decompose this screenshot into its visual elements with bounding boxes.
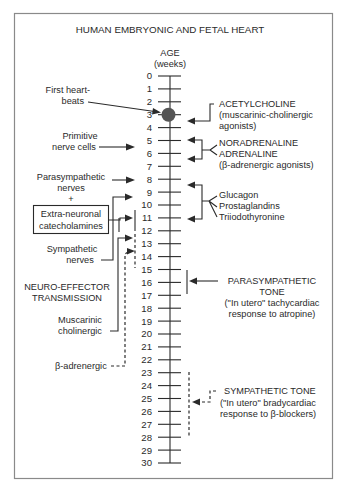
label-primitive-2: nerve cells bbox=[52, 142, 96, 152]
label-acetylcholine-3: agonists) bbox=[219, 121, 256, 131]
label-neuro-effector-1: NEURO-EFFECTOR bbox=[24, 282, 110, 292]
label-noradrenaline: NORADRENALINE bbox=[219, 138, 298, 148]
axis-tick-label: 13 bbox=[141, 238, 152, 249]
label-neuro-effector-2: TRANSMISSION bbox=[32, 293, 102, 303]
axis-tick-label: 14 bbox=[141, 251, 152, 262]
axis-tick-label: 16 bbox=[141, 277, 152, 288]
axis-tick-label: 18 bbox=[141, 303, 152, 314]
label-muscarinic-1: Muscarinic bbox=[58, 315, 102, 325]
axis-tick-label: 10 bbox=[141, 199, 152, 210]
label-parasympathetic-nerves-2: nerves bbox=[57, 183, 85, 193]
axis-tick-label: 9 bbox=[147, 187, 152, 198]
label-sympathetic-tone-2: ("In utero" bradycardiac bbox=[220, 398, 316, 408]
label-glucagon: Glucagon bbox=[219, 190, 258, 200]
label-extra-neuronal-1: Extra-neuronal bbox=[41, 209, 101, 219]
axis-tick-label: 5 bbox=[147, 135, 152, 146]
label-sympathetic-nerves-2: nerves bbox=[66, 255, 94, 265]
axis-tick-label: 22 bbox=[141, 354, 152, 365]
label-sympathetic-nerves-1: Sympathetic bbox=[47, 244, 98, 254]
label-sympathetic-tone-3: response to β-blockers) bbox=[220, 409, 316, 419]
axis-tick-label: 30 bbox=[141, 457, 152, 468]
axis-tick-label: 1 bbox=[147, 83, 152, 94]
label-prostaglandins: Prostaglandins bbox=[219, 201, 280, 211]
axis-label: AGE bbox=[160, 48, 179, 58]
label-parasympathetic-tone-3: ("In utero" tachycardiac bbox=[225, 298, 320, 308]
label-first-heartbeats-2: beats bbox=[62, 96, 85, 106]
embryonic-heart-diagram: HUMAN EMBRYONIC AND FETAL HEART AGE (wee… bbox=[0, 0, 340, 487]
axis-tick-label: 23 bbox=[141, 367, 152, 378]
first-heartbeat-dot bbox=[162, 108, 176, 122]
axis-tick-label: 12 bbox=[141, 225, 152, 236]
label-triiodothyronine: Triiodothyronine bbox=[219, 212, 285, 222]
label-sympathetic-tone-1: SYMPATHETIC TONE bbox=[224, 386, 316, 396]
label-parasympathetic-tone-2: TONE bbox=[259, 287, 284, 297]
label-parasympathetic-tone-4: response to atropine) bbox=[229, 309, 316, 319]
label-muscarinic-2: cholinergic bbox=[58, 326, 102, 336]
figure-title: HUMAN EMBRYONIC AND FETAL HEART bbox=[76, 24, 265, 35]
label-extra-neuronal-2: catecholamines bbox=[39, 221, 103, 231]
axis-tick-label: 29 bbox=[141, 445, 152, 456]
axis-tick-label: 20 bbox=[141, 328, 152, 339]
axis-tick-label: 0 bbox=[147, 70, 152, 81]
label-parasympathetic-nerves-1: Parasympathetic bbox=[37, 172, 106, 182]
axis-unit: (weeks) bbox=[154, 59, 186, 69]
axis-tick-label: 2 bbox=[147, 96, 152, 107]
axis-tick-label: 6 bbox=[147, 148, 152, 159]
axis-tick-label: 15 bbox=[141, 264, 152, 275]
axis-tick-label: 17 bbox=[141, 290, 152, 301]
axis-tick-label: 19 bbox=[141, 316, 152, 327]
label-primitive-1: Primitive bbox=[62, 131, 97, 141]
plus-sign: + bbox=[68, 194, 73, 204]
axis-tick-label: 26 bbox=[141, 406, 152, 417]
axis-tick-label: 11 bbox=[142, 212, 152, 223]
label-parasympathetic-tone-1: PARASYMPATHETIC bbox=[228, 276, 317, 286]
label-beta-agonists: (β-adrenergic agonists) bbox=[219, 160, 314, 170]
label-adrenaline: ADRENALINE bbox=[219, 149, 278, 159]
axis-tick-label: 4 bbox=[147, 122, 153, 133]
axis-tick-label: 25 bbox=[141, 393, 152, 404]
axis-tick-label: 24 bbox=[141, 380, 152, 391]
label-acetylcholine-2: (muscarinic-cholinergic bbox=[219, 110, 313, 120]
axis-tick-label: 7 bbox=[147, 161, 152, 172]
label-first-heartbeats-1: First heart- bbox=[46, 85, 90, 95]
axis-tick-label: 27 bbox=[141, 419, 152, 430]
axis-tick-label: 8 bbox=[147, 174, 152, 185]
label-acetylcholine-1: ACETYLCHOLINE bbox=[219, 99, 296, 109]
axis-tick-label: 21 bbox=[141, 341, 152, 352]
label-beta-adrenergic: β-adrenergic bbox=[55, 361, 107, 371]
axis-tick-label: 28 bbox=[141, 432, 152, 443]
